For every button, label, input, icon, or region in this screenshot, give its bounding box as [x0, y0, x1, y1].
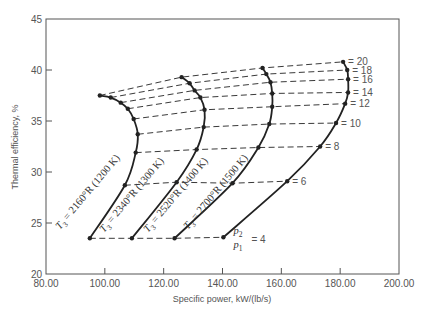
x-tick-label: 80.00 — [33, 278, 58, 289]
x-tick-label: 120.00 — [148, 278, 179, 289]
y-tick-label: 30 — [31, 167, 43, 178]
data-point — [179, 75, 183, 79]
data-point — [109, 95, 113, 99]
y-tick-label: 20 — [31, 269, 43, 280]
x-tick-label: 100.00 — [90, 278, 121, 289]
y-tick-label: 35 — [31, 116, 43, 127]
data-point — [134, 150, 138, 154]
pressure-ratio-line-4 — [90, 237, 224, 238]
data-point — [260, 66, 264, 70]
data-point — [131, 117, 135, 121]
data-point — [270, 91, 274, 95]
pressure-ratio-label: = 14 — [353, 87, 373, 98]
pressure-ratio-line-18 — [111, 70, 348, 98]
x-tick-label: 140.00 — [207, 278, 238, 289]
data-point — [187, 81, 191, 85]
data-point — [285, 179, 289, 183]
data-point — [341, 60, 345, 64]
pressure-ratio-line-14 — [128, 92, 348, 108]
data-point — [119, 100, 123, 104]
p1-label: p1 — [232, 239, 242, 253]
pressure-ratio-label: = 6 — [292, 176, 307, 187]
pressure-ratio-line-12 — [134, 104, 346, 119]
data-point — [318, 144, 322, 148]
pressure-ratio-label: = 12 — [350, 98, 370, 109]
pressure-ratio-line-20 — [100, 62, 343, 96]
data-point — [194, 147, 198, 151]
data-point — [334, 121, 338, 125]
axis-ticks: 80.00100.00120.00140.00160.00180.00200.0… — [31, 14, 415, 290]
y-tick-label: 45 — [31, 14, 43, 25]
pressure-ratio-label: = 8 — [325, 141, 340, 152]
pressure-ratio-label: = 10 — [341, 118, 361, 129]
pressure-ratio-line-8 — [136, 147, 320, 153]
data-point — [98, 93, 102, 97]
pressure-ratio-line-10 — [138, 123, 336, 134]
data-point — [192, 88, 196, 92]
data-point — [126, 107, 130, 111]
data-point — [88, 236, 92, 240]
y-tick-label: 25 — [31, 218, 43, 229]
temperature-curve-3 — [175, 68, 273, 238]
data-point — [264, 72, 268, 76]
data-point — [172, 236, 176, 240]
data-point — [198, 95, 202, 99]
curve-labels: T3 = 2160°R (1200 K)T3 = 2340°R (1300 K)… — [53, 56, 373, 253]
data-point — [202, 108, 206, 112]
data-point — [221, 235, 225, 239]
x-axis-title: Specific power, kW/(lb/s) — [173, 294, 272, 304]
data-point — [256, 145, 260, 149]
p2-label: p2 — [232, 225, 242, 239]
data-point — [268, 80, 272, 84]
x-tick-label: 200.00 — [384, 278, 415, 289]
data-point — [267, 122, 271, 126]
pressure-ratio-label: = 20 — [348, 56, 368, 67]
y-axis-title: Thermal efficiency, % — [10, 104, 20, 189]
pressure-ratio-4-label: = 4 — [251, 234, 266, 245]
pressure-ratio-lines — [90, 62, 348, 238]
y-tick-label: 40 — [31, 65, 43, 76]
data-point — [346, 90, 350, 94]
data-point — [123, 183, 127, 187]
x-tick-label: 160.00 — [266, 278, 297, 289]
x-tick-label: 180.00 — [325, 278, 356, 289]
temperature-curves — [88, 60, 351, 241]
data-point — [130, 236, 134, 240]
data-point — [136, 132, 140, 136]
data-point — [345, 68, 349, 72]
data-point — [201, 125, 205, 129]
pressure-ratio-line-16 — [121, 79, 348, 102]
data-point — [270, 105, 274, 109]
data-point — [343, 101, 347, 105]
efficiency-vs-power-chart: 80.00100.00120.00140.00160.00180.00200.0… — [0, 0, 425, 320]
data-point — [346, 77, 350, 81]
